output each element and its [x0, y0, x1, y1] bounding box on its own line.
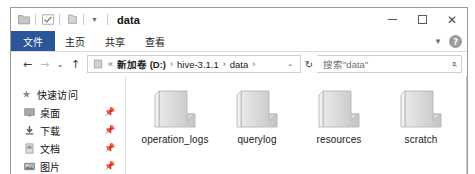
- breadcrumb-item-hive[interactable]: hive-3.1.1: [176, 59, 220, 70]
- file-name: operation_logs: [141, 134, 208, 145]
- desktop-icon: [23, 106, 35, 118]
- search-box[interactable]: 搜索"data" ⌕: [317, 55, 462, 73]
- customize-caret-icon[interactable]: ▼: [89, 16, 100, 23]
- sidebar-item-quick-access[interactable]: 快速访问: [11, 85, 125, 103]
- recent-locations-button[interactable]: ⌄: [53, 54, 67, 74]
- sidebar-label: 图片: [40, 159, 99, 174]
- file-name: resources: [317, 134, 362, 145]
- ribbon-tab-bar: 文件 主页 共享 查看 ▼ ?: [11, 31, 467, 52]
- tab-view[interactable]: 查看: [135, 31, 175, 51]
- pin-icon[interactable]: 📌: [104, 107, 125, 117]
- divider: [35, 14, 36, 25]
- breadcrumb-item-drive[interactable]: 新加卷 (D:): [116, 57, 167, 71]
- navigation-pane: 快速访问 桌面 📌 下载 📌 文档: [11, 76, 126, 174]
- minimize-button[interactable]: [377, 8, 407, 31]
- breadcrumb-separator: ›: [220, 59, 229, 69]
- divider: [107, 14, 108, 25]
- title-bar: ▼ data ✕: [11, 8, 467, 31]
- folder-icon: [150, 88, 200, 131]
- sidebar-item-downloads[interactable]: 下载 📌: [11, 121, 125, 139]
- breadcrumb: « 新加卷 (D:) › hive-3.1.1 › data ›: [103, 57, 283, 71]
- maximize-button[interactable]: [407, 8, 437, 31]
- address-bar-row: ← → ⌄ ↑ « 新加卷 (D:) › hive-3.1.1 › data ›…: [11, 52, 467, 76]
- search-icon[interactable]: ⌕: [451, 58, 457, 70]
- up-button[interactable]: ↑: [67, 54, 84, 74]
- sidebar-label: 文档: [40, 141, 99, 156]
- forward-button[interactable]: →: [36, 54, 53, 74]
- sidebar-item-desktop[interactable]: 桌面 📌: [11, 103, 125, 121]
- divider: [83, 14, 84, 25]
- folder-icon: [232, 88, 282, 131]
- drive-icon: [92, 59, 103, 70]
- sidebar-item-pictures[interactable]: 图片 📌: [11, 157, 125, 174]
- window-controls: ✕: [377, 8, 467, 31]
- chevron-down-icon[interactable]: ▼: [434, 37, 442, 46]
- new-folder-icon[interactable]: [65, 13, 78, 26]
- close-button[interactable]: ✕: [437, 8, 467, 31]
- ribbon-actions: ▼ ?: [434, 31, 462, 52]
- documents-icon: [23, 142, 35, 154]
- search-input[interactable]: 搜索"data": [323, 57, 451, 71]
- tab-share[interactable]: 共享: [95, 31, 135, 51]
- tab-file[interactable]: 文件: [11, 31, 55, 51]
- sidebar-label: 桌面: [40, 105, 99, 120]
- help-icon[interactable]: ?: [449, 35, 462, 48]
- divider: [59, 14, 60, 25]
- breadcrumb-item-data[interactable]: data: [229, 59, 250, 70]
- file-item[interactable]: querylog: [216, 88, 298, 145]
- pin-icon[interactable]: 📌: [104, 125, 125, 135]
- sidebar-label: 下载: [40, 123, 99, 138]
- folder-icon: [396, 88, 446, 131]
- properties-icon[interactable]: [41, 13, 54, 26]
- sidebar-label: 快速访问: [37, 87, 125, 102]
- breadcrumb-overflow[interactable]: «: [105, 59, 116, 69]
- window-body: 快速访问 桌面 📌 下载 📌 文档: [11, 76, 467, 174]
- file-name: querylog: [237, 134, 276, 145]
- address-dropdown-icon[interactable]: ⌄: [283, 60, 297, 68]
- file-item[interactable]: scratch: [380, 88, 462, 145]
- sidebar-item-documents[interactable]: 文档 📌: [11, 139, 125, 157]
- pin-icon[interactable]: 📌: [104, 161, 125, 171]
- breadcrumb-separator[interactable]: ›: [249, 59, 258, 69]
- pin-icon[interactable]: 📌: [104, 143, 125, 153]
- folder-icon[interactable]: [17, 13, 30, 26]
- pictures-icon: [23, 160, 35, 172]
- file-name: scratch: [405, 134, 438, 145]
- refresh-button[interactable]: ↻: [301, 55, 317, 73]
- file-item[interactable]: operation_logs: [134, 88, 216, 145]
- window-title: data: [117, 14, 140, 26]
- downloads-icon: [23, 124, 35, 136]
- file-list-view[interactable]: operation_logs querylog: [126, 76, 467, 174]
- quick-access-toolbar: ▼: [11, 13, 110, 26]
- file-explorer-window: ▼ data ✕ 文件 主页 共享 查看 ▼ ? ← → ⌄ ↑ «: [10, 7, 468, 174]
- address-bar[interactable]: « 新加卷 (D:) › hive-3.1.1 › data › ⌄: [87, 55, 301, 73]
- folder-icon: [314, 88, 364, 131]
- pin-star-icon: [20, 88, 32, 100]
- back-button[interactable]: ←: [19, 54, 36, 74]
- breadcrumb-separator: ›: [167, 59, 176, 69]
- tab-home[interactable]: 主页: [55, 31, 95, 51]
- file-item[interactable]: resources: [298, 88, 380, 145]
